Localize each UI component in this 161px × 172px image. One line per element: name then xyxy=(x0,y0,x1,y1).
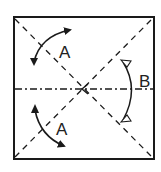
label-a-bottom: A xyxy=(56,120,68,139)
label-b: B xyxy=(139,72,150,91)
label-a-top: A xyxy=(59,43,71,62)
fold-diagram: A A B xyxy=(0,0,161,172)
